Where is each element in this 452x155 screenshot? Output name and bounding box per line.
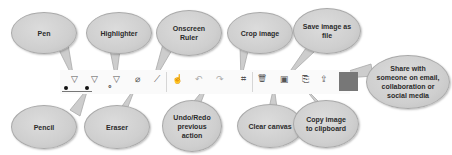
save-icon[interactable]: ▣ [278,72,290,86]
callout-crop-image: Crop image [227,12,293,54]
callout-highlighter: Highlighter [86,12,152,54]
callout-crop-text: Crop image [237,29,284,38]
callout-save-image: Save image as file [293,8,361,54]
callout-save-text: Save image as file [295,22,359,40]
highlighter-tool-icon[interactable]: ▽ [110,72,122,86]
callout-share: Share with someone on email, collaborati… [366,55,450,109]
callout-copy-image: Copy image to clipboard [293,100,359,148]
callout-undo-text: Undo/Redo previous action [165,113,218,140]
share-icon[interactable]: ⇪ [318,72,330,86]
callout-eraser: Eraser [84,105,150,149]
eraser-tool-icon[interactable]: ⌀ [131,72,143,86]
callout-clear-text: Clear canvas [244,122,295,131]
crop-icon[interactable]: ⌗ [237,72,249,86]
accent-color-box [339,72,358,91]
pen-color-dot-icon[interactable] [64,86,68,90]
callout-copy-text: Copy image to clipboard [298,115,354,133]
pen-tool-icon[interactable]: ▽ [68,72,80,86]
pencil-tool-icon[interactable]: ▽ [88,72,100,86]
toolbar-separator [252,72,253,92]
callout-onscreen-ruler: Onscreen Ruler [156,10,222,56]
redo-icon[interactable]: ↷ [214,72,226,86]
callout-pen: Pen [11,12,77,54]
pen-selection-underline [62,91,92,92]
callout-undo-redo: Undo/Redo previous action [162,100,222,152]
callout-ruler-text: Onscreen Ruler [165,24,213,42]
pencil-color-dot-icon[interactable] [85,86,89,90]
callout-pen-text: Pen [34,29,55,38]
callout-eraser-text: Eraser [102,123,132,132]
callout-pencil: Pencil [11,105,77,149]
undo-icon[interactable]: ↶ [193,72,205,86]
callout-pencil-text: Pencil [30,123,59,132]
callout-share-text: Share with someone on email, collaborati… [368,64,447,100]
callout-highlighter-text: Highlighter [97,29,142,38]
ruler-tool-icon[interactable]: ⟋ [151,72,163,86]
touch-writing-icon[interactable]: ☝ [171,72,183,86]
clear-canvas-icon[interactable]: 🗑 [256,72,268,86]
copy-icon[interactable]: ⎘ [299,72,311,86]
toolbar-separator [166,72,167,92]
